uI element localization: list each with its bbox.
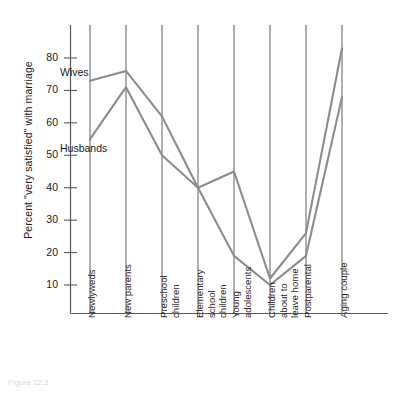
x-category-label-elementary-school-children: Elementary school children: [194, 198, 228, 318]
figure-caption: Figure 12.3: [8, 378, 48, 387]
x-category-label-newlyweds: Newlyweds: [86, 198, 120, 318]
chart-figure: Percent "very satisfied" with marriage 8…: [0, 0, 399, 399]
x-category-label-preschool-children: Preschool children: [158, 198, 192, 318]
x-category-label-postparental: Postparental: [302, 198, 336, 318]
x-category-label-children-about-to-leave-home: Children about to leave home: [266, 198, 300, 318]
series-label-wives: Wives: [60, 66, 89, 78]
series-label-husbands: Husbands: [60, 142, 107, 154]
x-category-label-new-parents: New parents: [122, 198, 156, 318]
x-category-label-young-adolescents: Young adolescents: [230, 198, 264, 318]
x-category-label-aging-couple: Aging couple: [338, 198, 372, 318]
